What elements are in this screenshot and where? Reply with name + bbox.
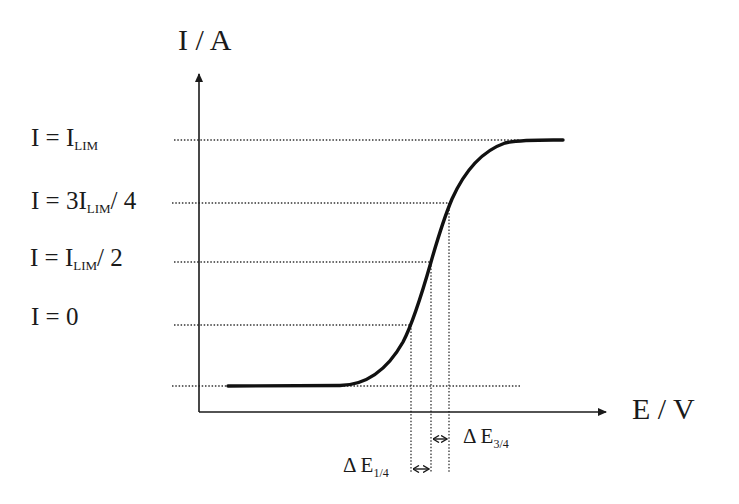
delta-main: Δ E [463,424,493,448]
level-sub: LIM [73,258,97,273]
delta-e34-label: Δ E3/4 [463,426,509,450]
level-main: I = 0 [31,303,78,330]
y-level-label-ilim: I = ILIM [31,125,98,152]
y-level-label-zero: I = 0 [31,304,78,329]
level-tail: / 2 [97,244,123,271]
level-main: I = I [31,124,74,151]
delta-sub: 3/4 [493,437,508,451]
y-level-label-half: I = ILIM/ 2 [30,245,123,272]
vertical-guides [411,203,449,473]
level-main: I = 3I [31,187,87,214]
level-sub: LIM [87,201,111,216]
horizontal-guides [172,140,521,386]
level-sub: LIM [74,138,98,153]
delta-sub: 1/4 [373,466,388,480]
y-level-label-3quarter: I = 3ILIM/ 4 [31,188,136,215]
sigmoid-curve [228,140,563,386]
level-tail: / 4 [111,187,137,214]
delta-e14-label: Δ E1/4 [343,455,389,479]
level-main: I = I [30,244,73,271]
y-axis-title: I / A [178,25,231,55]
x-axis-title: E / V [632,394,695,424]
delta-main: Δ E [343,453,373,477]
